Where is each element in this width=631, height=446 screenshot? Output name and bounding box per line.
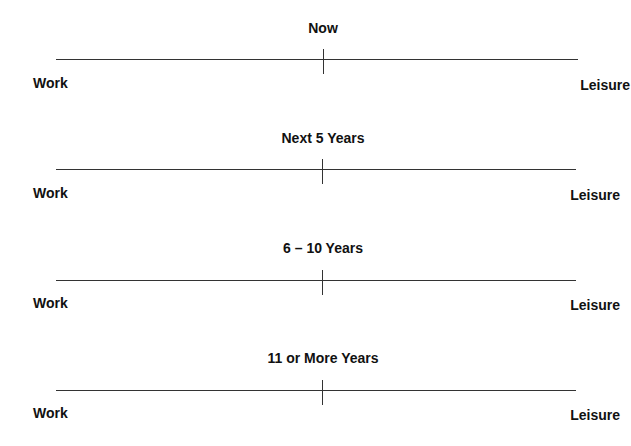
left-label: Work	[33, 75, 68, 91]
scale-line	[56, 169, 576, 170]
midpoint-tick	[322, 270, 323, 295]
scale-now: Now Work Leisure	[0, 20, 631, 130]
right-label: Leisure	[570, 297, 620, 313]
left-label: Work	[33, 405, 68, 421]
scale-line	[56, 59, 578, 60]
scale-next-5-years: Next 5 Years Work Leisure	[0, 130, 631, 240]
scale-11-or-more-years: 11 or More Years Work Leisure	[0, 350, 631, 446]
scale-title: 11 or More Years	[0, 350, 631, 366]
scale-title: 6 – 10 Years	[0, 240, 631, 256]
midpoint-tick	[322, 159, 323, 184]
left-label: Work	[33, 185, 68, 201]
right-label: Leisure	[580, 77, 630, 93]
left-label: Work	[33, 295, 68, 311]
midpoint-tick	[322, 380, 323, 405]
midpoint-tick	[323, 49, 324, 74]
scale-line	[56, 280, 576, 281]
right-label: Leisure	[570, 407, 620, 423]
scale-title: Now	[0, 20, 631, 36]
scale-line	[56, 390, 576, 391]
scale-title: Next 5 Years	[0, 130, 631, 146]
scale-6-10-years: 6 – 10 Years Work Leisure	[0, 240, 631, 350]
right-label: Leisure	[570, 187, 620, 203]
